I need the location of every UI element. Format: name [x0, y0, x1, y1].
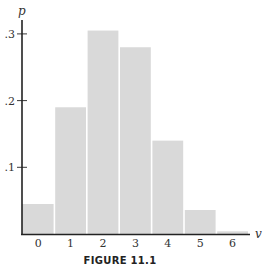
- y-ticks-group: .1.2.3: [5, 28, 28, 174]
- x-tick-label: 5: [197, 237, 204, 250]
- y-axis-label: p: [18, 4, 26, 18]
- bars-group: [22, 31, 248, 234]
- x-axis-label: v: [255, 227, 262, 241]
- x-tick-label: 4: [164, 237, 171, 250]
- y-tick-label: .3: [5, 28, 16, 41]
- figure-caption: FIGURE 11.1: [0, 255, 240, 266]
- x-tick-label: 6: [229, 237, 236, 250]
- y-tick-label: .1: [5, 161, 16, 174]
- bar-6: [217, 231, 248, 234]
- bar-5: [185, 210, 216, 234]
- x-tick-labels-group: 0123456: [35, 237, 236, 250]
- bar-4: [152, 141, 183, 234]
- y-tick-label: .2: [5, 95, 16, 108]
- bar-3: [120, 47, 151, 234]
- x-tick-label: 2: [100, 237, 107, 250]
- bar-0: [22, 204, 54, 234]
- histogram-chart: .1.2.3 0123456 p v: [0, 0, 271, 270]
- x-tick-label: 3: [132, 237, 139, 250]
- x-tick-label: 0: [35, 237, 42, 250]
- x-tick-label: 1: [67, 237, 74, 250]
- bar-2: [88, 31, 119, 234]
- bar-1: [55, 107, 86, 234]
